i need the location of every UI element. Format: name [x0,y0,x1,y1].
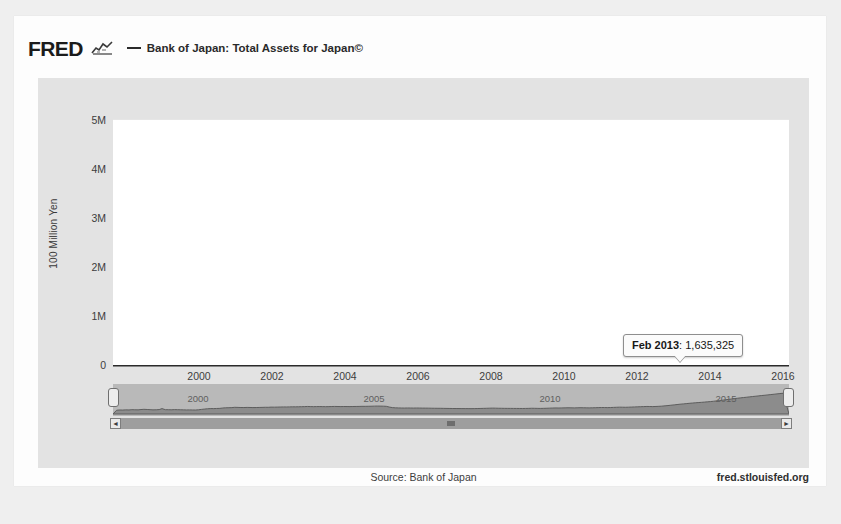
fred-logo[interactable]: FRED [28,38,83,59]
plot-background [113,120,789,365]
x-tick-label: 2002 [242,370,302,382]
tooltip-pointer [674,355,686,362]
chart-panel: 100 Million Yen 5M 4M 3M 2M 1M 0 2000 20… [38,78,809,468]
y-tick-label: 2M [66,261,106,273]
navigator-right-handle[interactable] [783,388,794,407]
navigator-left-handle[interactable] [108,388,119,407]
fred-chart-card: FRED Bank of Japan: Total Assets for Jap… [14,16,826,486]
data-tooltip: Feb 2013: 1,635,325 [623,334,743,357]
range-navigator[interactable]: 2000 2005 2010 2015 [113,384,789,416]
legend-series-label: Bank of Japan: Total Assets for Japan© [147,42,363,54]
navigator-year-label: 2005 [349,393,399,404]
y-tick-label: 0 [66,359,106,371]
x-tick-label: 2012 [607,370,667,382]
scrollbar-grip [447,421,455,426]
x-tick-label: 2014 [680,370,740,382]
x-tick-label: 2008 [461,370,521,382]
chart-legend[interactable]: Bank of Japan: Total Assets for Japan© [127,42,363,54]
x-tick-label: 2016 [753,370,813,382]
fred-squiggle-icon [91,41,113,55]
y-tick-label: 3M [66,212,106,224]
scroll-left-arrow-icon[interactable]: ◄ [110,418,121,429]
scroll-right-arrow-icon[interactable]: ► [781,418,792,429]
plot-area: 100 Million Yen 5M 4M 3M 2M 1M 0 2000 20… [38,78,809,468]
x-tick-label: 2010 [534,370,594,382]
navigator-year-label: 2010 [525,393,575,404]
scrollbar-thumb[interactable] [121,418,781,429]
tooltip-value: 1,635,325 [685,339,734,351]
y-tick-label: 4M [66,163,106,175]
chart-header: FRED Bank of Japan: Total Assets for Jap… [28,36,363,60]
fred-url-label[interactable]: fred.stlouisfed.org [717,471,809,483]
chart-footer: Source: Bank of Japan fred.stlouisfed.or… [38,471,809,487]
legend-line-swatch [127,47,141,49]
x-tick-label: 2004 [315,370,375,382]
x-tick-label: 2000 [169,370,229,382]
screenshot-page: FRED Bank of Japan: Total Assets for Jap… [0,0,841,524]
x-tick-label: 2006 [388,370,448,382]
y-tick-label: 1M [66,310,106,322]
y-axis-title: 100 Million Yen [48,149,59,319]
tooltip-date: Feb 2013 [632,339,679,351]
navigator-year-label: 2000 [173,393,223,404]
source-label: Source: Bank of Japan [38,471,809,483]
y-tick-label: 5M [66,114,106,126]
horizontal-scrollbar[interactable]: ◄ ► [110,418,792,429]
navigator-year-label: 2015 [701,393,751,404]
